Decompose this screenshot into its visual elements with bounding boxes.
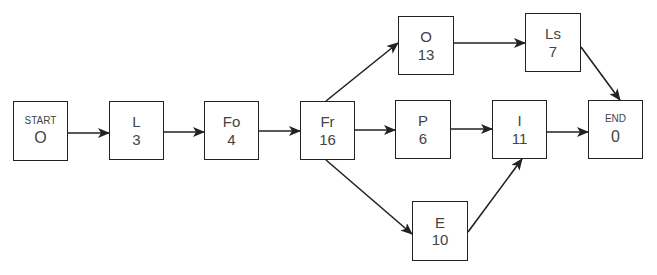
node-end: END0 xyxy=(588,100,643,159)
node-duration: 10 xyxy=(432,231,449,248)
arrow-fr-to-e xyxy=(326,160,412,234)
node-duration: 16 xyxy=(319,131,336,148)
node-duration: 3 xyxy=(132,131,140,148)
node-duration: 4 xyxy=(227,131,235,148)
node-label: I xyxy=(517,112,521,129)
node-duration: 7 xyxy=(549,43,557,60)
node-label: END xyxy=(605,113,626,125)
node-label: E xyxy=(435,214,445,231)
node-fr: Fr16 xyxy=(300,101,355,160)
arrow-e-to-i xyxy=(468,159,522,232)
node-label: Fo xyxy=(223,113,241,130)
arrow-ls-to-end xyxy=(581,47,620,100)
node-duration: 0 xyxy=(611,128,620,146)
node-duration: O xyxy=(34,129,46,147)
node-ls: Ls7 xyxy=(525,13,581,72)
node-duration: 11 xyxy=(512,130,528,147)
network-diagram: STARTOL3Fo4Fr16O13Ls7P6I11E10END0 xyxy=(0,0,657,275)
node-label: P xyxy=(418,112,428,129)
node-o: O13 xyxy=(398,16,454,75)
node-fo: Fo4 xyxy=(204,101,259,160)
node-i: I11 xyxy=(492,100,547,159)
node-label: L xyxy=(132,113,140,130)
node-label: O xyxy=(420,28,432,45)
node-start: STARTO xyxy=(13,101,68,161)
node-label: Fr xyxy=(320,113,334,130)
node-l: L3 xyxy=(109,101,164,160)
node-duration: 13 xyxy=(418,46,435,63)
node-p: P6 xyxy=(395,100,451,159)
node-label: Ls xyxy=(545,25,561,42)
node-e: E10 xyxy=(412,201,468,261)
node-duration: 6 xyxy=(419,130,427,147)
node-label: START xyxy=(25,115,57,127)
arrow-fr-to-o xyxy=(326,43,398,101)
